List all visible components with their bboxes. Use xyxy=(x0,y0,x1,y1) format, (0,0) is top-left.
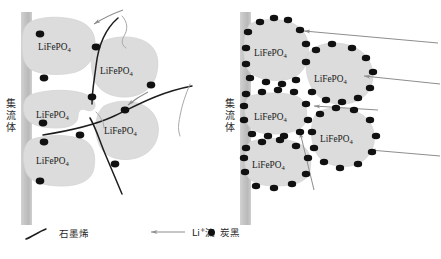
carbon-black-dot xyxy=(292,77,300,84)
carbon-black-dot xyxy=(350,107,358,114)
particle-label: LiFePO4 xyxy=(36,110,69,121)
carbon-black-dot xyxy=(296,129,304,136)
particle-label: LiFePO4 xyxy=(252,160,285,171)
carbon-black-dot xyxy=(242,61,250,68)
left-panel-graphics: LiFePO4 LiFePO4 LiFePO4 LiFePO4 LiFePO4 xyxy=(0,0,220,215)
carbon-black-dot xyxy=(111,161,120,168)
carbon-black-dot xyxy=(290,89,298,96)
carbon-black-dot xyxy=(354,161,362,168)
legend-label-graphene: 石墨烯 xyxy=(59,226,89,240)
particle-label: LiFePO4 xyxy=(100,66,133,77)
legend-item-carbon-black: 炭黑 xyxy=(208,225,240,239)
carbon-black-dot xyxy=(88,94,97,101)
legend-item-graphene: 石墨烯 xyxy=(24,225,89,241)
carbon-black-dot xyxy=(242,145,250,152)
carbon-black-dot xyxy=(328,41,336,48)
li-flow-arrow xyxy=(364,76,440,84)
particle-label: LiFePO4 xyxy=(254,48,287,59)
carbon-black-dot xyxy=(322,97,330,104)
li-flow-arrow xyxy=(304,31,438,43)
carbon-black-dot xyxy=(316,111,324,118)
carbon-black-dot xyxy=(338,99,346,106)
carbon-black-dot xyxy=(354,95,362,102)
carbon-black-dot xyxy=(242,45,250,52)
carbon-black-dot xyxy=(256,19,264,26)
carbon-black-dot xyxy=(76,132,85,139)
legend-label-carbon-black: 炭黑 xyxy=(220,225,240,239)
carbon-black-dot xyxy=(36,178,45,185)
carbon-black-dot xyxy=(240,117,248,124)
carbon-black-dot xyxy=(304,155,312,162)
carbon-black-dot xyxy=(40,139,49,146)
carbon-black-dot xyxy=(264,133,272,140)
carbon-black-dot xyxy=(292,143,300,150)
carbon-black-dot xyxy=(372,133,380,140)
carbon-black-dot xyxy=(336,165,344,172)
carbon-black-dot xyxy=(240,155,248,162)
carbon-black-dot xyxy=(366,117,374,124)
carbon-black-dot xyxy=(36,31,45,38)
graphene-icon xyxy=(24,225,54,241)
carbon-black-dot xyxy=(258,89,266,96)
carbon-black-dot xyxy=(304,117,312,124)
carbon-black-dot xyxy=(310,145,318,152)
li-flow-arrow xyxy=(94,10,123,24)
carbon-black-dot xyxy=(312,47,320,54)
carbon-black-dot xyxy=(240,103,248,110)
carbon-black-dot xyxy=(302,171,310,178)
carbon-black-dot xyxy=(242,91,250,98)
carbon-black-dot xyxy=(332,105,340,112)
carbon-black-dot xyxy=(121,107,130,114)
carbon-black-dot xyxy=(40,75,49,82)
legend-label-li-prefix: Li xyxy=(192,227,200,238)
carbon-black-dot xyxy=(258,139,266,146)
carbon-black-dot xyxy=(274,87,282,94)
right-panel-graphics: LiFePO4 LiFePO4 LiFePO4 LiFePO4 LiFePO4 xyxy=(218,0,441,215)
li-flow-arrow xyxy=(370,150,440,156)
carbon-black-dot xyxy=(302,101,310,108)
carbon-black-dot xyxy=(288,181,296,188)
carbon-black-dot xyxy=(248,131,256,138)
carbon-black-dot xyxy=(252,183,260,190)
carbon-black-dot xyxy=(302,59,310,66)
particle-label: LiFePO4 xyxy=(320,134,353,145)
carbon-black-dot xyxy=(368,149,376,156)
carbon-black-panel: 集 流 体 LiFePO4 LiFePO4 LiFePO4 LiFePO4 Li… xyxy=(218,0,441,215)
particle-group-left: LiFePO4 LiFePO4 LiFePO4 LiFePO4 LiFePO4 xyxy=(22,17,158,186)
carbon-black-dot xyxy=(308,129,316,136)
carbon-black-dot xyxy=(320,159,328,166)
carbon-black-dot xyxy=(92,44,101,51)
carbon-black-icon xyxy=(208,229,215,236)
carbon-black-dot xyxy=(348,45,356,52)
graphene-sheet-edge xyxy=(179,84,191,136)
carbon-black-dot xyxy=(147,82,156,89)
particle-label: LiFePO4 xyxy=(314,74,347,85)
carbon-black-dot xyxy=(246,75,254,82)
li-flow-arrow-icon xyxy=(145,225,187,239)
figure-root: 集 流 体 LiFePO4 LiFePO4 LiFePO4 LiFePO4 Li… xyxy=(0,0,441,259)
legend: 石墨烯 Li+流 炭黑 xyxy=(0,215,441,259)
carbon-black-dot xyxy=(366,85,374,92)
carbon-black-dot xyxy=(296,27,304,34)
carbon-black-dot xyxy=(241,169,249,176)
carbon-black-dot xyxy=(39,120,48,127)
carbon-black-dot xyxy=(276,137,284,144)
carbon-black-dot xyxy=(284,17,292,24)
carbon-black-dot xyxy=(278,81,286,88)
carbon-black-dot xyxy=(270,15,278,22)
carbon-black-dot xyxy=(244,29,252,36)
particle-label: LiFePO4 xyxy=(104,126,137,137)
particle-label: LiFePO4 xyxy=(254,112,287,123)
graphene-network-panel: 集 流 体 LiFePO4 LiFePO4 LiFePO4 LiFePO4 Li… xyxy=(0,0,220,215)
carbon-black-dot xyxy=(308,89,316,96)
carbon-black-dot xyxy=(369,69,377,76)
carbon-black-dot xyxy=(262,79,270,86)
carbon-black-dot xyxy=(302,41,310,48)
carbon-black-dot xyxy=(270,185,278,192)
carbon-black-dot xyxy=(362,55,370,62)
particle-label: LiFePO4 xyxy=(38,42,71,53)
particle-label: LiFePO4 xyxy=(36,156,69,167)
legend-item-li-flow: Li+流 xyxy=(145,225,215,239)
